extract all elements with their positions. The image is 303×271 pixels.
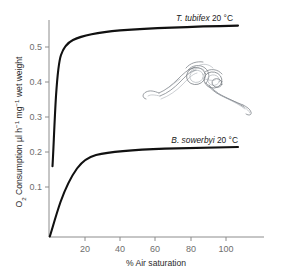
series-label-t-tubifex-temp: 20 °C bbox=[210, 13, 233, 23]
y-tick-label-0.4: 0.4 bbox=[29, 77, 42, 87]
y-axis-title-mid: Consumption µl h bbox=[14, 128, 24, 198]
y-axis-ticks: 0.1 0.2 0.3 0.4 0.5 bbox=[29, 42, 49, 192]
series-label-t-tubifex-species: T. tubifex bbox=[176, 13, 210, 23]
y-axis-title-tail: wet weight bbox=[14, 56, 24, 100]
x-tick-label-80: 80 bbox=[186, 244, 196, 254]
series-label-b-sowerbyi-temp: 20 °C bbox=[215, 135, 238, 145]
y-tick-label-0.3: 0.3 bbox=[29, 112, 42, 122]
y-tick-label-0.1: 0.1 bbox=[29, 182, 42, 192]
oxygen-consumption-chart: 0.1 0.2 0.3 0.4 0.5 20 40 60 80 100 % Ai… bbox=[0, 0, 303, 271]
y-axis-title-mid2: mg bbox=[14, 106, 24, 121]
series-curve-t-tubifex bbox=[53, 26, 239, 167]
series-label-t-tubifex: T. tubifex 20 °C bbox=[176, 13, 233, 23]
series-curve-b-sowerbyi bbox=[50, 147, 238, 237]
y-tick-label-0.2: 0.2 bbox=[29, 147, 42, 157]
y-axis-title: O2 Consumption µl h−1 mg−1 wet weight bbox=[13, 56, 27, 208]
x-tick-label-100: 100 bbox=[218, 244, 233, 254]
x-tick-label-20: 20 bbox=[80, 244, 90, 254]
x-axis-title: % Air saturation bbox=[126, 258, 186, 268]
x-tick-label-60: 60 bbox=[150, 244, 160, 254]
series-label-b-sowerbyi: B. sowerbyi 20 °C bbox=[171, 135, 238, 145]
worm-illustration-icon bbox=[143, 62, 251, 115]
svg-text:O2 Consumption µl h−1 mg−1 wet: O2 Consumption µl h−1 mg−1 wet weight bbox=[13, 56, 27, 208]
y-tick-label-0.5: 0.5 bbox=[29, 42, 42, 52]
x-axis-ticks: 20 40 60 80 100 bbox=[80, 237, 234, 254]
figure-container: 0.1 0.2 0.3 0.4 0.5 20 40 60 80 100 % Ai… bbox=[0, 0, 303, 271]
series-label-b-sowerbyi-species: B. sowerbyi bbox=[171, 135, 215, 145]
x-tick-label-40: 40 bbox=[115, 244, 125, 254]
